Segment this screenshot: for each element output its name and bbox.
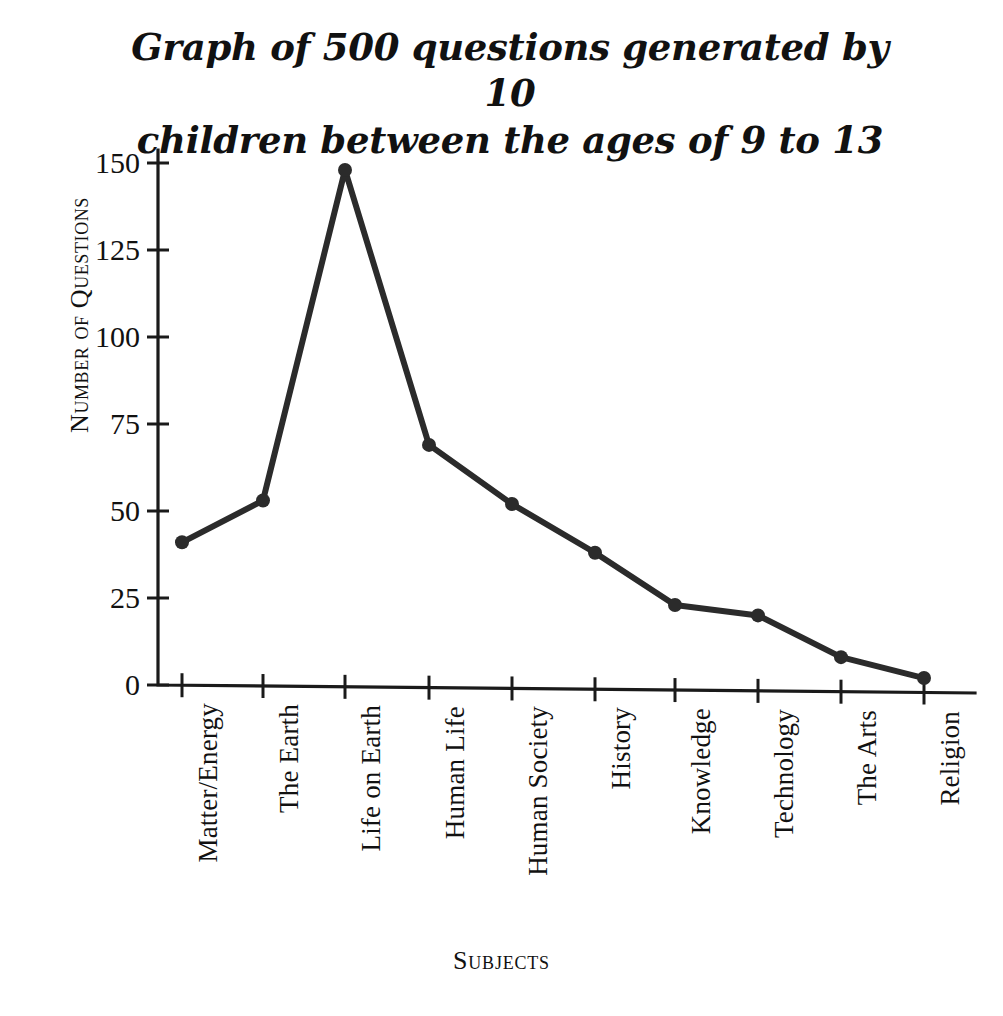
data-point-marker[interactable] xyxy=(668,598,682,612)
data-point-marker[interactable] xyxy=(588,546,602,560)
data-point-marker[interactable] xyxy=(917,671,931,685)
chart-page: Graph of 500 questions generated by 10 c… xyxy=(0,0,1003,1016)
data-point-marker[interactable] xyxy=(175,535,189,549)
data-point-marker[interactable] xyxy=(338,163,352,177)
series-polyline xyxy=(182,170,924,678)
data-point-marker[interactable] xyxy=(422,438,436,452)
data-point-markers xyxy=(175,163,931,685)
line-chart-plot xyxy=(0,0,1003,1016)
data-point-marker[interactable] xyxy=(505,497,519,511)
data-point-marker[interactable] xyxy=(256,494,270,508)
data-series-line xyxy=(182,170,924,678)
data-point-marker[interactable] xyxy=(834,650,848,664)
axis-ticks-group xyxy=(147,163,924,705)
data-point-marker[interactable] xyxy=(751,608,765,622)
